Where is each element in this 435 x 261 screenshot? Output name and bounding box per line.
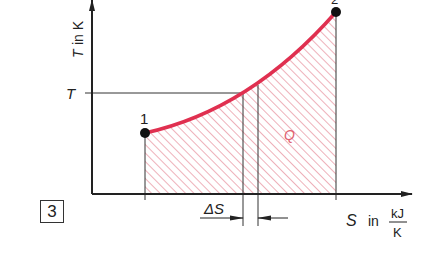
x-axis-unit-num: kJ <box>391 206 404 221</box>
x-axis-unit-den: K <box>393 225 402 240</box>
figure-number: 3 <box>40 200 64 223</box>
point-2 <box>331 7 341 17</box>
y-axis-symbol: T <box>70 48 86 58</box>
point-1 <box>140 128 150 138</box>
t-marker-label: T <box>66 85 77 102</box>
x-axis-unit-in: in <box>368 213 379 229</box>
point-1-label: 1 <box>140 110 148 127</box>
x-axis-symbol: S <box>346 212 357 229</box>
area-label: Q <box>284 127 295 143</box>
ts-diagram: T in K T 1 2 Q ΔS S in kJ K <box>0 0 435 261</box>
heat-area <box>145 12 336 194</box>
delta-s-label: ΔS <box>203 200 224 217</box>
point-2-label: 2 <box>331 0 338 7</box>
y-axis-unit: in K <box>70 20 86 45</box>
